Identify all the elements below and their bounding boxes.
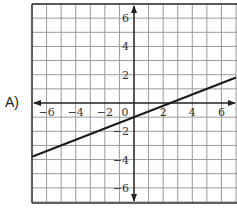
svg-text:4: 4 bbox=[189, 106, 196, 119]
svg-text:−6: −6 bbox=[113, 182, 129, 195]
svg-text:−4: −4 bbox=[113, 154, 129, 167]
svg-text:0: 0 bbox=[122, 106, 129, 119]
svg-text:−4: −4 bbox=[68, 106, 84, 119]
svg-text:−6: −6 bbox=[38, 106, 54, 119]
axes bbox=[33, 5, 236, 202]
svg-text:2: 2 bbox=[122, 69, 129, 82]
svg-text:−2: −2 bbox=[97, 106, 113, 119]
svg-text:6: 6 bbox=[122, 12, 129, 25]
svg-text:6: 6 bbox=[218, 106, 225, 119]
coordinate-graph: −6−4−20246642−2−4−6 bbox=[0, 0, 237, 210]
svg-text:2: 2 bbox=[160, 106, 167, 119]
svg-text:−2: −2 bbox=[113, 125, 129, 138]
svg-text:4: 4 bbox=[122, 40, 129, 53]
